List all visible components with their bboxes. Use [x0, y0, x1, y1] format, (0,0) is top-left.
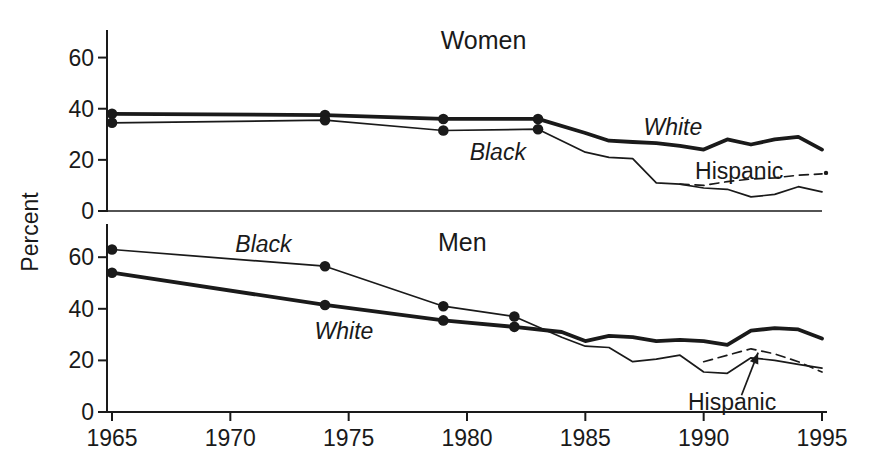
panel-men: 02040601965197019751980198519901995MenWh… [68, 224, 847, 451]
women-white-point-1983 [533, 114, 544, 125]
men-black-label: Black [235, 231, 293, 257]
women-black-point-1979 [438, 125, 449, 136]
smoking-trends-figure: Percent 0204060WomenWhiteBlackHispanic02… [0, 0, 869, 473]
men-hispanic-label: Hispanic [688, 389, 776, 415]
women-y-tick-label-0: 0 [81, 198, 94, 224]
line-chart: 0204060WomenWhiteBlackHispanic0204060196… [0, 0, 869, 473]
men-black-line [112, 250, 822, 374]
women-black-label: Black [470, 139, 528, 165]
x-tick-label-1990: 1990 [678, 425, 729, 451]
men-black-point-1974 [320, 261, 331, 272]
women-black-point-1965 [107, 117, 118, 128]
women-y-tick-label-60: 60 [68, 45, 94, 71]
men-white-point-1979 [438, 315, 449, 326]
women-panel-title: Women [441, 26, 527, 54]
men-white-label: White [315, 318, 374, 344]
x-tick-label-1975: 1975 [323, 425, 374, 451]
men-hispanic-line [704, 349, 822, 372]
men-black-point-1965 [107, 244, 118, 255]
women-y-tick-label-40: 40 [68, 96, 94, 122]
women-hispanic-dash-end-dot [824, 171, 828, 175]
x-tick-label-1985: 1985 [560, 425, 611, 451]
men-white-point-1974 [320, 300, 331, 311]
y-axis-title: Percent [17, 192, 44, 271]
x-tick-label-1995: 1995 [796, 425, 847, 451]
women-white-point-1979 [438, 114, 449, 125]
men-y-tick-label-40: 40 [68, 296, 94, 322]
women-y-tick-label-20: 20 [68, 147, 94, 173]
men-y-tick-label-20: 20 [68, 347, 94, 373]
x-tick-label-1980: 1980 [441, 425, 492, 451]
panel-women: 0204060WomenWhiteBlackHispanic [68, 26, 828, 224]
women-white-line [112, 114, 822, 150]
women-black-point-1974 [320, 115, 331, 126]
men-white-point-1982 [509, 322, 520, 333]
men-black-point-1979 [438, 301, 449, 312]
men-y-tick-label-0: 0 [81, 399, 94, 425]
x-tick-label-1965: 1965 [86, 425, 137, 451]
men-black-point-1982 [509, 311, 520, 322]
women-black-point-1983 [533, 124, 544, 135]
men-panel-title: Men [438, 228, 487, 256]
men-white-point-1965 [107, 267, 118, 278]
men-y-tick-label-60: 60 [68, 244, 94, 270]
women-white-label: White [644, 114, 703, 140]
women-hispanic-label: Hispanic [695, 158, 783, 184]
x-tick-label-1970: 1970 [205, 425, 256, 451]
